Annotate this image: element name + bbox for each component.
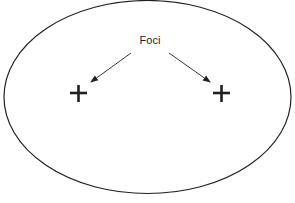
left-focus-plus-icon — [70, 85, 87, 102]
ellipse-foci-diagram: Foci — [0, 0, 295, 203]
foci-label: Foci — [140, 34, 161, 46]
arrow-to-left-focus — [91, 53, 131, 82]
right-focus-plus-icon — [213, 85, 230, 102]
arrow-to-right-focus — [169, 53, 210, 82]
ellipse-outline — [4, 1, 291, 194]
